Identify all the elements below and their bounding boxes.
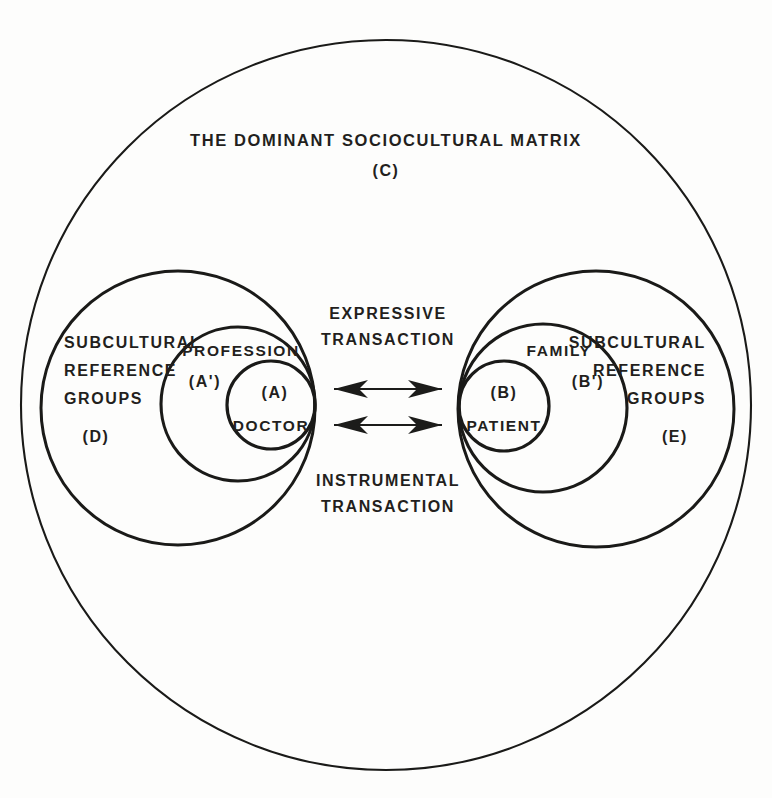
left-subcultural-circle-d <box>41 271 315 545</box>
right-family-label: FAMILY <box>526 342 591 359</box>
right-family-code: (B') <box>572 373 604 390</box>
right-patient-circle-b <box>459 361 549 451</box>
right-patient-label: PATIENT <box>466 417 541 434</box>
right-subcultural-label-line3: GROUPS <box>627 390 706 407</box>
sociocultural-matrix-diagram: THE DOMINANT SOCIOCULTURAL MATRIX (C) SU… <box>0 0 772 798</box>
left-subcultural-label-line2: REFERENCE <box>64 362 177 379</box>
left-doctor-label: DOCTOR <box>233 417 309 434</box>
matrix-title: THE DOMINANT SOCIOCULTURAL MATRIX <box>190 131 582 149</box>
right-subcultural-code-e: (E) <box>662 428 688 445</box>
left-doctor-code: (A) <box>261 384 288 401</box>
instrumental-transaction-arrow <box>334 416 442 434</box>
diagram-canvas: THE DOMINANT SOCIOCULTURAL MATRIX (C) SU… <box>0 0 772 798</box>
left-profession-code: (A') <box>189 373 221 390</box>
expressive-label-line1: EXPRESSIVE <box>329 305 446 322</box>
left-subcultural-label-line3: GROUPS <box>64 390 143 407</box>
instrumental-label-line2: TRANSACTION <box>321 498 455 515</box>
left-profession-label: PROFESSION <box>182 342 300 359</box>
left-subcultural-code-d: (D) <box>82 428 109 445</box>
right-subcultural-label-line2: REFERENCE <box>593 362 706 379</box>
left-doctor-circle-a <box>227 361 315 449</box>
expressive-label-line2: TRANSACTION <box>321 331 455 348</box>
left-subcultural-label-line1: SUBCULTURAL <box>64 334 201 351</box>
right-patient-code: (B) <box>490 384 517 401</box>
expressive-transaction-arrow <box>334 380 442 398</box>
matrix-title-code: (C) <box>372 162 399 179</box>
instrumental-label-line1: INSTRUMENTAL <box>316 472 460 489</box>
right-subcultural-circle-e <box>458 271 734 547</box>
